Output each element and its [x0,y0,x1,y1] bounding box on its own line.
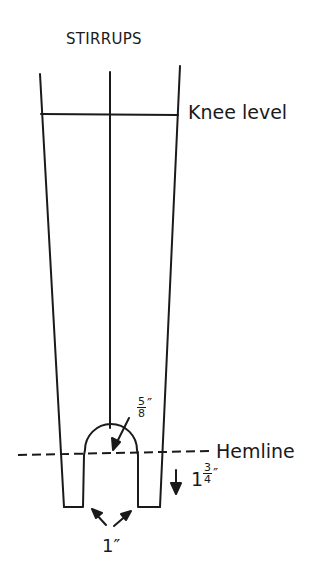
arch-radius-unit: ″ [147,395,152,411]
knee-level-line [41,114,178,115]
right-seam-line [160,66,180,507]
hemline-label: Hemline [216,440,295,462]
knee-level-label: Knee level [188,101,287,123]
stirrup-width-label: 1″ [102,535,120,556]
stirrup-cutout [64,424,160,507]
fraction-denominator: 4 [204,474,211,485]
arch-radius-fraction: 5 8 [137,396,146,419]
extension-arrowhead [171,483,181,494]
extension-whole: 1 [191,468,203,490]
hemline-dashed [18,451,210,455]
extension-unit: ″ [213,465,218,481]
fraction-denominator: 8 [138,408,145,419]
stirrups-pattern-drawing [0,0,318,578]
left-seam-line [40,74,64,507]
extension-fraction: 3 4 [203,462,212,485]
diagram-title: STIRRUPS [66,30,142,48]
width-arrowhead-left [92,509,102,518]
